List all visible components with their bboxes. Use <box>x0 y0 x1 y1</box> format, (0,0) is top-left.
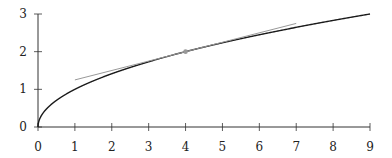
tangent-point <box>183 49 188 54</box>
plot-series <box>38 14 370 127</box>
x-tick-label: 5 <box>219 140 227 154</box>
sqrt-curve <box>38 14 370 127</box>
axes <box>38 14 370 127</box>
x-tick-label: 4 <box>182 140 190 154</box>
y-tick-label: 3 <box>19 7 27 21</box>
y-tick-label: 1 <box>19 82 27 96</box>
x-tick-label: 8 <box>329 140 337 154</box>
x-tick-label: 7 <box>292 140 300 154</box>
x-tick-label: 0 <box>34 140 42 154</box>
chart: 01234567890123 <box>0 0 392 158</box>
x-tick-label: 3 <box>145 140 153 154</box>
y-tick-label: 2 <box>19 45 27 59</box>
axis-ticks: 01234567890123 <box>19 7 374 154</box>
x-tick-label: 6 <box>256 140 264 154</box>
x-tick-label: 1 <box>71 140 79 154</box>
x-tick-label: 9 <box>366 140 374 154</box>
y-tick-label: 0 <box>19 120 27 134</box>
x-tick-label: 2 <box>108 140 116 154</box>
